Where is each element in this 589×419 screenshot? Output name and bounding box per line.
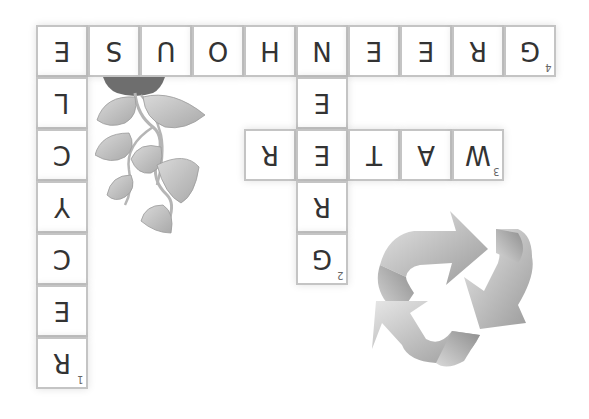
- cell-letter: A: [402, 131, 450, 179]
- cell-letter: C: [38, 131, 86, 179]
- crossword-cell[interactable]: R: [296, 181, 348, 233]
- cell-letter: E: [298, 131, 346, 179]
- cell-letter: N: [298, 27, 346, 75]
- crossword-cell[interactable]: H: [244, 25, 296, 77]
- cell-letter: H: [246, 27, 294, 75]
- crossword-cell[interactable]: L: [36, 77, 88, 129]
- cell-letter: E: [38, 287, 86, 335]
- cell-letter: R: [298, 183, 346, 231]
- plant-vine-illustration: [95, 75, 245, 240]
- crossword-board: ESUOHNEERG4LECRETAW3YRCG2ER1: [0, 0, 589, 419]
- crossword-cell[interactable]: T: [348, 129, 400, 181]
- crossword-cell[interactable]: U: [140, 25, 192, 77]
- cell-letter: C: [38, 235, 86, 283]
- clue-number: 3: [493, 166, 499, 177]
- crossword-cell[interactable]: C: [36, 129, 88, 181]
- cell-letter: E: [350, 27, 398, 75]
- crossword-cell[interactable]: S: [88, 25, 140, 77]
- crossword-cell[interactable]: N: [296, 25, 348, 77]
- clue-number: 2: [337, 270, 343, 281]
- crossword-cell[interactable]: E: [36, 285, 88, 337]
- crossword-cell[interactable]: E: [296, 77, 348, 129]
- crossword-cell[interactable]: C: [36, 233, 88, 285]
- crossword-cell[interactable]: G2: [296, 233, 348, 285]
- cell-letter: Y: [38, 183, 86, 231]
- crossword-cell[interactable]: Y: [36, 181, 88, 233]
- cell-letter: U: [142, 27, 190, 75]
- cell-letter: R: [246, 131, 294, 179]
- crossword-cell[interactable]: E: [296, 129, 348, 181]
- cell-letter: S: [90, 27, 138, 75]
- crossword-cell[interactable]: G4: [504, 25, 556, 77]
- crossword-cell[interactable]: R: [244, 129, 296, 181]
- crossword-cell[interactable]: R1: [36, 337, 88, 389]
- cell-letter: E: [38, 27, 86, 75]
- crossword-cell[interactable]: E: [400, 25, 452, 77]
- cell-letter: O: [194, 27, 242, 75]
- crossword-cell[interactable]: R: [452, 25, 504, 77]
- crossword-cell[interactable]: A: [400, 129, 452, 181]
- crossword-cell[interactable]: E: [348, 25, 400, 77]
- clue-number: 4: [545, 62, 551, 73]
- clue-number: 1: [77, 374, 83, 385]
- crossword-cell[interactable]: W3: [452, 129, 504, 181]
- crossword-cell[interactable]: E: [36, 25, 88, 77]
- cell-letter: L: [38, 79, 86, 127]
- recycle-symbol-icon: [368, 205, 543, 385]
- cell-letter: T: [350, 131, 398, 179]
- cell-letter: R: [454, 27, 502, 75]
- cell-letter: E: [298, 79, 346, 127]
- cell-letter: E: [402, 27, 450, 75]
- crossword-cell[interactable]: O: [192, 25, 244, 77]
